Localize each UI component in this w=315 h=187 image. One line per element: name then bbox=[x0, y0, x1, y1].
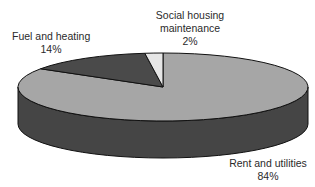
label-fuel-name: Fuel and heating bbox=[12, 30, 90, 43]
label-rent-and-utilities: Rent and utilities 84% bbox=[218, 157, 315, 183]
label-social-name-1: Social housing bbox=[130, 9, 250, 22]
label-rent-value: 84% bbox=[218, 170, 315, 183]
label-fuel-and-heating: Fuel and heating 14% bbox=[12, 30, 90, 56]
label-rent-name: Rent and utilities bbox=[218, 157, 315, 170]
label-social-housing-maintenance: Social housing maintenance 2% bbox=[130, 9, 250, 48]
label-social-value: 2% bbox=[130, 35, 250, 48]
label-fuel-value: 14% bbox=[12, 43, 90, 56]
label-social-name-2: maintenance bbox=[130, 22, 250, 35]
